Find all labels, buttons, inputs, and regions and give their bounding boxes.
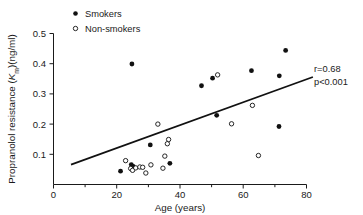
y-tick-label-0.3: 0.3 [33, 88, 46, 99]
y-tick-label-0.5: 0.5 [33, 28, 46, 39]
axes [54, 34, 307, 185]
y-axis-title: Propranolol resistance (Km)(ng/ml) [6, 34, 20, 183]
data-point [148, 143, 153, 148]
pvalue-annotation: p<0.001 [314, 77, 348, 87]
data-point [144, 171, 148, 175]
x-tick-label-40: 40 [175, 189, 186, 200]
regression-line [71, 77, 313, 165]
data-point [229, 122, 233, 126]
plot-canvas: 0.5 0.4 0.3 0.2 0.1 0 20 40 60 80 Age (y… [0, 0, 363, 215]
data-point [249, 68, 254, 73]
legend-item-non-smokers[interactable]: Non-smokers [73, 24, 140, 34]
y-axis-title-text: Propranolol resistance (Km)(ng/ml) [6, 34, 20, 183]
legend-label-smokers: Smokers [85, 9, 122, 19]
data-point [163, 154, 167, 158]
statistics-annotation: r=0.68 p<0.001 [314, 64, 348, 87]
x-axis-tick-labels: 0 20 40 60 80 [51, 189, 312, 200]
correlation-annotation: r=0.68 [314, 64, 341, 74]
x-tick-label-20: 20 [111, 189, 122, 200]
data-point [277, 124, 282, 129]
data-point [156, 122, 160, 126]
y-axis-tick-labels: 0.5 0.4 0.3 0.2 0.1 [33, 28, 46, 160]
x-tick-label-80: 80 [301, 189, 312, 200]
y-axis-ticks [50, 34, 54, 155]
x-axis-title: Age (years) [155, 202, 206, 213]
data-point [149, 163, 153, 167]
data-point [250, 103, 254, 107]
data-point [214, 113, 219, 118]
data-point [134, 166, 138, 170]
data-point [277, 73, 282, 78]
y-tick-label-0.1: 0.1 [33, 149, 46, 160]
legend: Smokers Non-smokers [73, 9, 140, 34]
legend-marker-filled-circle-icon [73, 11, 78, 16]
y-axis-title-suffix: )(ng/ml) [6, 34, 17, 68]
series-non-smokers [123, 73, 260, 176]
data-points-layer [118, 48, 288, 175]
data-point [167, 161, 172, 166]
y-tick-label-0.4: 0.4 [33, 58, 46, 69]
data-point [140, 165, 144, 169]
data-point [199, 83, 204, 88]
data-point [210, 76, 215, 81]
data-point [118, 169, 123, 174]
y-axis-title-prefix: Propranolol resistance ( [6, 80, 17, 184]
x-tick-label-0: 0 [51, 189, 56, 200]
y-tick-label-0.2: 0.2 [33, 119, 46, 130]
data-point [165, 142, 169, 146]
data-point [123, 158, 127, 162]
data-point [283, 48, 288, 53]
x-axis-ticks [54, 185, 307, 189]
legend-marker-open-circle-icon [73, 26, 77, 30]
data-point [215, 73, 219, 77]
x-tick-label-60: 60 [238, 189, 249, 200]
data-point [161, 166, 165, 170]
legend-item-smokers[interactable]: Smokers [73, 9, 122, 19]
data-point [256, 153, 260, 157]
regression-line-group [71, 77, 313, 165]
legend-label-non-smokers: Non-smokers [85, 24, 141, 34]
data-point [166, 137, 170, 141]
data-point [130, 62, 135, 67]
series-smokers [118, 48, 288, 174]
scatter-plot-figure: 0.5 0.4 0.3 0.2 0.1 0 20 40 60 80 Age (y… [0, 0, 363, 215]
